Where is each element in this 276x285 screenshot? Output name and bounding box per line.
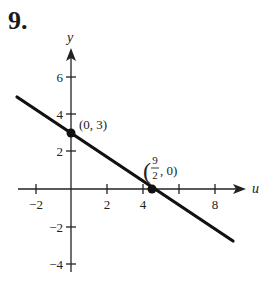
y-axis-label: y [65, 30, 74, 45]
point-label-x-intercept: ( 9 2 , 0) [143, 154, 177, 184]
fraction-denominator: 2 [152, 169, 158, 181]
x-tick-label: −2 [29, 197, 43, 212]
svg-text:(: ( [143, 158, 151, 184]
x-tick-label: 2 [104, 197, 111, 212]
x-axis-label: u [252, 181, 259, 196]
point-label-y-intercept: (0, 3) [79, 117, 107, 132]
line-graph: −2 2 4 8 6 4 2 −2 −4 u y (0, 3) ( 9 2 , … [0, 0, 276, 285]
y-tick-label: −2 [49, 220, 63, 235]
point-x-intercept [148, 185, 157, 194]
fraction-numerator: 9 [152, 154, 158, 166]
y-tick-label: −4 [49, 257, 63, 272]
y-tick-label: 2 [57, 144, 64, 159]
y-tick-label: 6 [57, 70, 64, 85]
x-tick-label: 8 [212, 197, 219, 212]
point-y-intercept [67, 129, 76, 138]
x-intercept-rest: , 0) [160, 163, 177, 178]
x-tick-label: 4 [140, 197, 147, 212]
y-tick-label: 4 [57, 107, 64, 122]
